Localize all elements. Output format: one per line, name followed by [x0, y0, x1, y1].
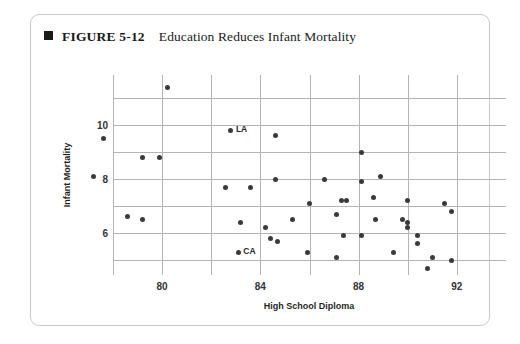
data-point — [405, 225, 410, 230]
x-axis-tick-label: 92 — [451, 281, 462, 292]
data-point — [263, 225, 268, 230]
data-point — [290, 217, 295, 222]
data-point — [430, 255, 435, 260]
data-point — [140, 155, 145, 160]
y-axis-tick-label: 6 — [102, 228, 108, 239]
data-point — [248, 185, 253, 190]
gridline-vertical — [310, 75, 311, 275]
data-point — [125, 214, 130, 219]
data-point — [391, 250, 396, 255]
x-axis-tick-label: 80 — [157, 281, 168, 292]
gridline-vertical — [162, 75, 163, 275]
data-point — [273, 133, 278, 138]
data-point — [268, 236, 273, 241]
data-point — [373, 217, 378, 222]
data-point — [165, 85, 170, 90]
data-point — [405, 198, 410, 203]
gridline-vertical — [457, 75, 458, 275]
data-point — [341, 233, 346, 238]
gridline-vertical — [113, 75, 114, 275]
data-point — [415, 233, 420, 238]
data-point — [322, 177, 327, 182]
gridline-vertical — [408, 75, 409, 275]
x-axis-tick-label: 84 — [255, 281, 266, 292]
gridline-vertical — [359, 75, 360, 275]
figure-header: FIGURE 5-12 Education Reduces Infant Mor… — [44, 29, 356, 45]
data-point — [228, 128, 233, 133]
data-point — [425, 266, 430, 271]
filled-square-icon — [44, 31, 53, 40]
data-point — [275, 239, 280, 244]
scatter-plot-area: 108680848892LACA — [113, 75, 506, 275]
data-point — [359, 150, 364, 155]
data-point — [442, 201, 447, 206]
data-point — [273, 177, 278, 182]
data-point — [305, 250, 310, 255]
data-point — [238, 220, 243, 225]
data-point — [334, 255, 339, 260]
x-axis-title: High School Diploma — [264, 301, 355, 311]
data-point-label: CA — [243, 246, 255, 256]
data-point — [334, 212, 339, 217]
data-point — [371, 195, 376, 200]
gridline-vertical — [211, 75, 212, 275]
x-axis-tick-label: 88 — [353, 281, 364, 292]
data-point — [449, 209, 454, 214]
data-point-label: LA — [236, 124, 247, 134]
data-point — [91, 174, 96, 179]
figure-number: FIGURE 5-12 — [62, 29, 145, 45]
data-point — [415, 241, 420, 246]
data-point — [359, 179, 364, 184]
data-point — [449, 258, 454, 263]
data-point — [140, 217, 145, 222]
data-point — [223, 185, 228, 190]
data-point — [236, 250, 241, 255]
gridline-vertical — [260, 75, 261, 275]
page-title: Education Reduces Infant Mortality — [159, 29, 356, 45]
y-axis-tick-label: 10 — [97, 120, 108, 131]
figure-card: FIGURE 5-12 Education Reduces Infant Mor… — [30, 14, 490, 326]
data-point — [359, 233, 364, 238]
data-point — [101, 136, 106, 141]
y-axis-tick-label: 8 — [102, 174, 108, 185]
data-point — [344, 198, 349, 203]
data-point — [307, 201, 312, 206]
data-point — [405, 220, 410, 225]
y-axis-title: Infant Mortality — [62, 143, 72, 208]
